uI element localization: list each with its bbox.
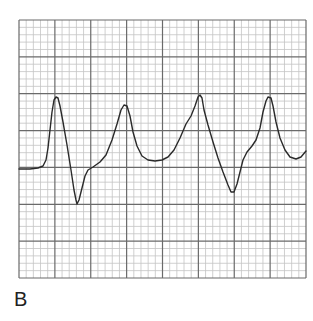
ecg-figure: B [0,0,313,321]
panel-label: B [14,289,27,309]
ecg-strip [0,0,313,321]
